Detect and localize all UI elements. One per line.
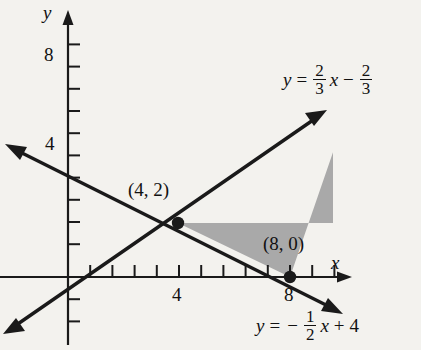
eq-rising-variable: x <box>330 70 338 89</box>
eq-falling-constant: 4 <box>350 316 360 335</box>
eq-rising-intercept-denominator: 3 <box>360 79 373 97</box>
eq-falling-slope-fraction: 1 2 <box>304 308 317 344</box>
eq-rising-slope-denominator: 3 <box>313 79 326 97</box>
eq-falling-slope-denominator: 2 <box>304 325 317 343</box>
eq-falling-variable: x <box>320 316 328 335</box>
eq-rising-intercept-fraction: 2 3 <box>360 62 373 98</box>
equation-label-falling: y = − 1 2 x + 4 <box>256 308 359 344</box>
eq-rising-intercept-numerator: 2 <box>360 62 373 79</box>
graph-canvas <box>0 0 421 350</box>
y-tick-label-8: 8 <box>44 45 54 64</box>
x-axis <box>0 272 352 283</box>
eq-falling-plus-sign: + <box>332 316 347 335</box>
eq-rising-slope-numerator: 2 <box>313 62 326 79</box>
intersection-point-label: (4, 2) <box>128 180 169 199</box>
eq-rising-equals: = <box>294 70 309 89</box>
eq-falling-slope-numerator: 1 <box>304 308 317 325</box>
eq-rising-minus-sign: − <box>341 70 356 89</box>
x-intercept-point-label: (8, 0) <box>263 234 304 253</box>
x-axis-label: x <box>331 253 339 272</box>
eq-falling-lhs: y <box>256 316 264 335</box>
x-tick-label-4: 4 <box>172 285 182 304</box>
equation-label-rising: y = 2 3 x − 2 3 <box>283 62 373 98</box>
eq-falling-equals: = <box>267 316 282 335</box>
x-axis-ticks <box>90 265 334 277</box>
eq-rising-lhs: y <box>283 70 291 89</box>
y-tick-label-4: 4 <box>45 134 55 153</box>
eq-falling-leading-sign: − <box>285 316 300 335</box>
intersection-point-dot <box>172 217 184 229</box>
y-axis-label: y <box>43 3 51 22</box>
coordinate-graph: y x 8 4 4 8 (4, 2) (8, 0) y = 2 3 x − 2 … <box>0 0 421 350</box>
eq-rising-slope-fraction: 2 3 <box>313 62 326 98</box>
x-tick-label-8: 8 <box>284 285 294 304</box>
x-intercept-point-dot <box>284 271 296 283</box>
